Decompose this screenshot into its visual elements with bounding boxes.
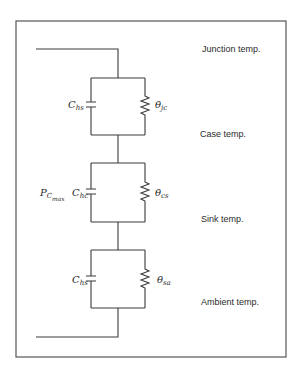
ambient-wire: [36, 308, 118, 337]
stage-1-junction-case: Chs θjc: [68, 78, 167, 135]
capacitor-icon: [86, 78, 96, 135]
resistor-label: θjc: [155, 99, 167, 112]
junction-wire: [36, 49, 118, 78]
resistor-label: θcs: [155, 187, 169, 200]
capacitor-label: Chs: [72, 274, 88, 287]
resistor-icon: [141, 78, 149, 135]
thermal-circuit-diagram: Chs θjc PCmax Chc θcs Chs θsa Junction t…: [0, 0, 300, 372]
resistor-icon: [141, 163, 149, 222]
junction-temp-label: Junction temp.: [202, 44, 261, 54]
capacitor-label: Chc: [72, 187, 88, 200]
stage-2-case-sink: PCmax Chc θcs: [39, 163, 169, 222]
stage-3-sink-ambient: Chs θsa: [72, 250, 171, 308]
resistor-icon: [141, 250, 149, 308]
power-source-label: PCmax: [39, 187, 65, 202]
case-temp-label: Case temp.: [200, 129, 246, 139]
capacitor-label: Chs: [68, 99, 84, 112]
sink-temp-label: Sink temp.: [201, 214, 244, 224]
resistor-label: θsa: [157, 274, 171, 287]
ambient-temp-label: Ambient temp.: [201, 297, 259, 307]
